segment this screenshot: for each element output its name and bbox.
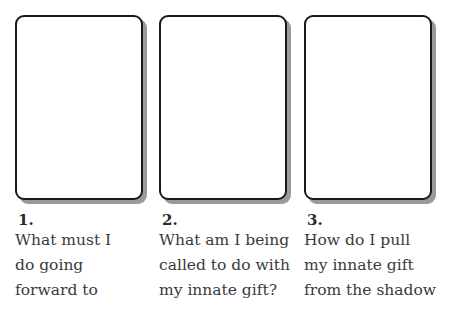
- position-number-1: 1.: [18, 212, 165, 228]
- position-number-2: 2.: [162, 212, 309, 228]
- question-line: my innate gift: [304, 253, 454, 278]
- question-line: from the shadow: [304, 278, 454, 303]
- question-line: How do I pull: [304, 228, 454, 253]
- card-position-1: 1. What must I do going forward to: [15, 15, 165, 303]
- position-question-3: How do I pull my innate gift from the sh…: [304, 228, 454, 303]
- question-line: do going: [15, 253, 165, 278]
- card-position-3: 3. How do I pull my innate gift from the…: [304, 15, 454, 303]
- card-position-2: 2. What am I being called to do with my …: [159, 15, 309, 303]
- question-line: called to do with: [159, 253, 309, 278]
- question-line: What am I being: [159, 228, 309, 253]
- tarot-spread-layout: 1. What must I do going forward to 2. Wh…: [0, 0, 459, 315]
- position-question-1: What must I do going forward to: [15, 228, 165, 303]
- position-number-3: 3.: [307, 212, 454, 228]
- blank-card-3: [304, 15, 432, 200]
- blank-card-1: [15, 15, 143, 200]
- question-line: What must I: [15, 228, 165, 253]
- question-line: forward to: [15, 278, 165, 303]
- position-question-2: What am I being called to do with my inn…: [159, 228, 309, 303]
- blank-card-2: [159, 15, 287, 200]
- question-line: my innate gift?: [159, 278, 309, 303]
